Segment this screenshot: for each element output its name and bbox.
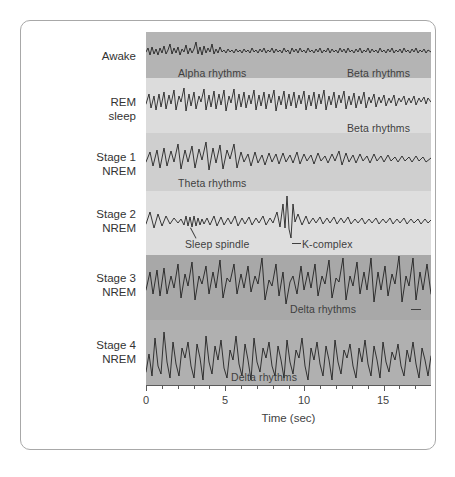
stage-label-stage4-line1: Stage 4	[58, 339, 136, 353]
x-tick-minor-12	[336, 385, 337, 389]
annotation-alpha-rhythms: Alpha rhythms	[178, 67, 246, 79]
stage-label-awake: Awake	[58, 50, 136, 64]
stage-label-stage2-line2: NREM	[58, 222, 136, 236]
plot-area	[146, 32, 431, 385]
k-complex-leader	[292, 243, 301, 244]
stage-label-stage2: Stage 2 NREM	[58, 208, 136, 235]
stage3-delta-leader	[411, 309, 421, 310]
x-tick-label-5: 5	[210, 394, 240, 406]
stage-label-stage3-line1: Stage 3	[58, 272, 136, 286]
sleep-eeg-figure: Alpha rhythms Beta rhythms Beta rhythms …	[0, 0, 455, 477]
annotation-beta-rhythms-rem: Beta rhythms	[347, 122, 410, 134]
stage-label-awake-line1: Awake	[58, 50, 136, 64]
x-tick-minor-17	[415, 385, 416, 389]
x-axis-title: Time (sec)	[146, 412, 431, 424]
x-tick-minor-6	[241, 385, 242, 389]
stage-label-rem: REM sleep	[58, 96, 136, 123]
stage-label-stage1: Stage 1 NREM	[58, 151, 136, 178]
x-tick-minor-11	[320, 385, 321, 389]
annotation-sleep-spindle: Sleep spindle	[185, 238, 249, 250]
x-tick-minor-9	[289, 385, 290, 389]
stage-label-rem-line2: sleep	[58, 110, 136, 124]
stage-label-stage4-line2: NREM	[58, 353, 136, 367]
x-tick-minor-14	[368, 385, 369, 389]
stage-label-stage1-line1: Stage 1	[58, 151, 136, 165]
band-stage3	[146, 255, 431, 320]
annotation-theta-rhythms: Theta rhythms	[178, 177, 246, 189]
x-tick-minor-4	[209, 385, 210, 389]
x-tick-major-10	[304, 385, 305, 391]
stage-label-rem-line1: REM	[58, 96, 136, 110]
annotation-delta-rhythms-stage3: Delta rhythms	[290, 303, 356, 315]
x-tick-minor-3	[194, 385, 195, 389]
stage-label-stage3: Stage 3 NREM	[58, 272, 136, 299]
x-tick-minor-1	[162, 385, 163, 389]
x-tick-label-0: 0	[131, 394, 161, 406]
stage-label-stage1-line2: NREM	[58, 165, 136, 179]
x-tick-label-15: 15	[368, 394, 398, 406]
x-tick-minor-8	[273, 385, 274, 389]
annotation-beta-rhythms-awake: Beta rhythms	[347, 67, 410, 79]
stage-label-stage3-line2: NREM	[58, 286, 136, 300]
x-tick-label-10: 10	[289, 394, 319, 406]
x-tick-major-0	[146, 385, 147, 391]
x-tick-major-5	[225, 385, 226, 391]
x-tick-minor-13	[352, 385, 353, 389]
annotation-delta-rhythms-stage4: Delta rhythms	[231, 371, 297, 383]
x-tick-major-15	[384, 385, 385, 391]
stage-label-stage4: Stage 4 NREM	[58, 339, 136, 366]
stage-label-stage2-line1: Stage 2	[58, 208, 136, 222]
x-tick-minor-16	[399, 385, 400, 389]
annotation-k-complex: K-complex	[302, 238, 353, 250]
x-tick-minor-2	[178, 385, 179, 389]
x-tick-minor-7	[257, 385, 258, 389]
